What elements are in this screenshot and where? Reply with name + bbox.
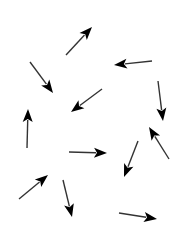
arrow-shaft — [155, 136, 169, 159]
arrow-shaft — [69, 152, 96, 153]
arrow-shaft — [27, 120, 28, 148]
arrow-shaft — [128, 141, 138, 167]
arrow-10 — [19, 175, 48, 199]
arrow-shaft — [80, 89, 102, 105]
arrow-5 — [156, 81, 166, 121]
arrow-11 — [63, 180, 74, 217]
arrow-9 — [124, 141, 138, 177]
arrow-3 — [30, 62, 53, 93]
arrow-shaft — [66, 35, 85, 55]
arrow-field — [0, 0, 188, 251]
arrow-head-icon — [35, 175, 48, 187]
arrow-head-icon — [149, 127, 160, 141]
arrow-shaft — [158, 81, 162, 110]
arrow-head-icon — [41, 80, 53, 93]
arrow-4 — [71, 89, 102, 112]
arrow-6 — [23, 109, 33, 148]
arrow-1 — [66, 27, 92, 55]
arrow-head-icon — [71, 100, 84, 112]
arrow-2 — [114, 59, 152, 69]
arrow-shaft — [125, 61, 152, 64]
arrow-7 — [69, 148, 107, 158]
arrow-shaft — [30, 62, 46, 84]
arrow-shaft — [119, 213, 146, 217]
arrow-shaft — [63, 180, 69, 206]
arrow-8 — [149, 127, 169, 159]
arrow-12 — [119, 212, 157, 222]
arrow-shaft — [19, 182, 40, 199]
